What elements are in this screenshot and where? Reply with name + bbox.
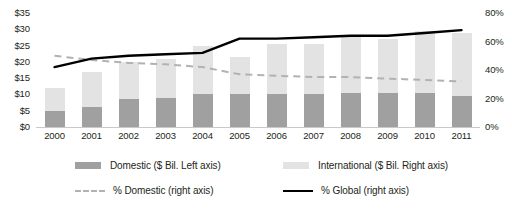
axis-baseline <box>36 127 480 128</box>
left-axis-tick: $15 <box>14 73 30 83</box>
x-axis-label: 2006 <box>257 130 297 142</box>
x-axis-label: 2004 <box>183 130 223 142</box>
x-axis-label: 2009 <box>368 130 408 142</box>
legend-label-pct-domestic: % Domestic (right axis) <box>113 185 214 196</box>
right-axis-tick: 0% <box>485 122 499 132</box>
x-axis-label: 2000 <box>35 130 75 142</box>
x-axis-label: 2003 <box>146 130 186 142</box>
right-axis-tick: 40% <box>485 65 504 75</box>
right-axis-tick: 80% <box>485 8 504 18</box>
x-axis-label: 2007 <box>294 130 334 142</box>
legend-swatch-domestic <box>75 162 101 169</box>
right-axis: 0%20%40%60%80% <box>482 13 512 127</box>
x-axis-label: 2002 <box>109 130 149 142</box>
x-axis-label: 2005 <box>220 130 260 142</box>
x-axis-label: 2008 <box>331 130 371 142</box>
left-axis-tick: $20 <box>14 57 30 67</box>
line-series-group <box>36 13 480 127</box>
legend-label-international: International ($ Bil. Right axis) <box>318 160 448 171</box>
legend-item-pct-domestic: % Domestic (right axis) <box>75 185 214 196</box>
legend-item-international: International ($ Bil. Right axis) <box>283 160 448 171</box>
left-axis-tick: $10 <box>14 90 30 100</box>
x-axis-labels: 2000200120022003200420052006200720082009… <box>36 130 480 146</box>
legend-label-domestic: Domestic ($ Bil. Left axis) <box>110 160 221 171</box>
left-axis-tick: $25 <box>14 41 30 51</box>
left-axis-tick: $35 <box>14 8 30 18</box>
chart-legend: Domestic ($ Bil. Left axis) Internationa… <box>0 158 512 216</box>
legend-label-pct-global: % Global (right axis) <box>321 185 409 196</box>
right-axis-tick: 20% <box>485 94 504 104</box>
left-axis-tick: $30 <box>14 25 30 35</box>
right-axis-tick: 60% <box>485 37 504 47</box>
chart-container: $0$5$10$15$20$25$30$35 0%20%40%60%80% 20… <box>0 0 512 221</box>
x-axis-label: 2010 <box>405 130 445 142</box>
plot-area <box>36 13 480 127</box>
legend-solid-line-icon <box>283 187 313 195</box>
legend-swatch-international <box>283 162 309 169</box>
left-axis-tick: $0 <box>20 122 30 132</box>
left-axis: $0$5$10$15$20$25$30$35 <box>0 13 32 127</box>
line-pct-domestic <box>55 56 462 82</box>
legend-dashed-line-icon <box>75 187 105 195</box>
x-axis-label: 2001 <box>72 130 112 142</box>
x-axis-label: 2011 <box>442 130 482 142</box>
legend-item-domestic: Domestic ($ Bil. Left axis) <box>75 160 221 171</box>
left-axis-tick: $5 <box>20 106 30 116</box>
legend-item-pct-global: % Global (right axis) <box>283 185 409 196</box>
